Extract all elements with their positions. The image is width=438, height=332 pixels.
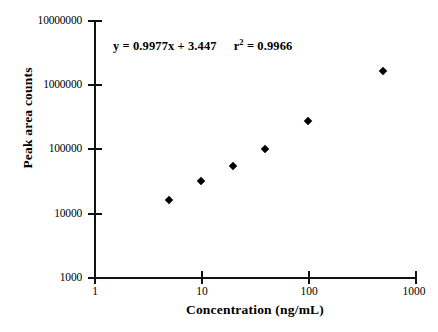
data-point-marker xyxy=(229,161,237,169)
data-point-marker xyxy=(379,67,387,75)
data-point-marker xyxy=(261,144,269,152)
calibration-curve-figure: 10000000 1000000 100000 10000 1000 1 10 … xyxy=(0,0,438,332)
data-point-marker xyxy=(304,117,312,125)
plot-area xyxy=(0,0,438,332)
data-point-marker xyxy=(197,177,205,185)
data-point-marker xyxy=(165,196,173,204)
